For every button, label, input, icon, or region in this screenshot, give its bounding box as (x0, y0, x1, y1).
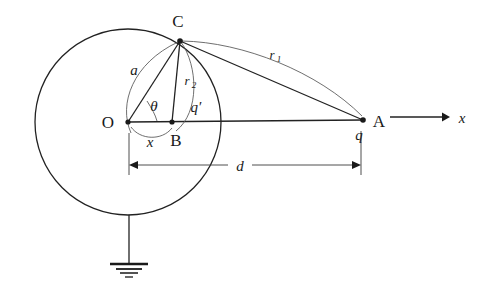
label-axis-x: x (458, 110, 466, 126)
x-axis-arrow-head (442, 113, 450, 122)
dimension-arrowhead-right (352, 161, 361, 169)
point-C-dot (177, 38, 183, 44)
label-distance-r1-subscript: 1 (277, 54, 282, 64)
label-distance-r2: r 2 (184, 73, 196, 90)
label-dimension-d: d (236, 158, 244, 174)
ground-symbol (110, 215, 148, 277)
segment-CB (172, 41, 180, 122)
label-distance-r2-base: r (184, 73, 190, 88)
x-axis-arrow (390, 113, 450, 122)
point-O-dot (125, 119, 130, 124)
label-distance-r2-subscript: 2 (192, 80, 197, 90)
label-point-C: C (172, 12, 183, 31)
label-distance-r1-base: r (269, 47, 275, 62)
label-image-charge-qprime: q′ (191, 99, 203, 115)
label-distance-x: x (146, 134, 154, 150)
axis-line-OA (128, 120, 363, 122)
label-real-charge-q: q (355, 127, 363, 143)
diagram-canvas: O C B A a r 1 r 2 θ x q′ q d x (0, 0, 486, 293)
label-angle-theta: θ (150, 98, 158, 114)
label-radius-a: a (130, 62, 138, 78)
label-point-B: B (170, 131, 181, 150)
label-point-O: O (102, 113, 114, 132)
dimension-d (129, 131, 361, 175)
point-B-dot (169, 119, 174, 124)
point-A-dot (360, 117, 366, 123)
label-point-A: A (373, 112, 386, 131)
dimension-arrowhead-left (129, 161, 138, 169)
